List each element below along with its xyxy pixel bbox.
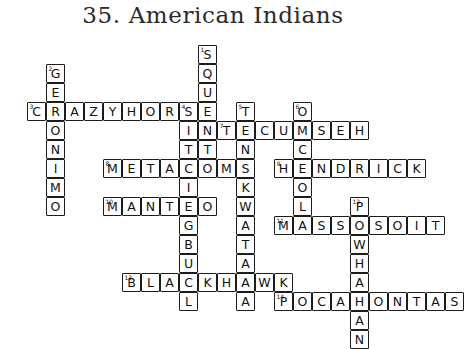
crossword-cell[interactable]: O — [141, 102, 160, 121]
crossword-cell[interactable]: 5T — [236, 102, 255, 121]
crossword-cell[interactable]: T — [160, 197, 179, 216]
crossword-cell[interactable]: T — [407, 292, 426, 311]
crossword-cell[interactable]: A — [160, 273, 179, 292]
crossword-cell[interactable]: 7T — [217, 121, 236, 140]
crossword-cell[interactable]: 1S — [198, 45, 217, 64]
crossword-cell[interactable]: 8M — [103, 159, 122, 178]
crossword-cell[interactable]: A — [293, 216, 312, 235]
crossword-cell[interactable]: T — [198, 140, 217, 159]
crossword-cell[interactable]: 12P — [350, 197, 369, 216]
crossword-cell[interactable]: H — [122, 102, 141, 121]
crossword-cell[interactable]: 2G — [46, 64, 65, 83]
crossword-cell[interactable]: I — [179, 121, 198, 140]
crossword-cell[interactable]: A — [236, 254, 255, 273]
crossword-cell[interactable]: E — [293, 159, 312, 178]
crossword-cell[interactable]: 6O — [293, 102, 312, 121]
crossword-cell[interactable]: A — [350, 311, 369, 330]
crossword-cell[interactable]: E — [236, 121, 255, 140]
crossword-cell[interactable]: S — [312, 216, 331, 235]
crossword-cell[interactable]: O — [388, 216, 407, 235]
crossword-cell[interactable]: N — [46, 140, 65, 159]
crossword-cell[interactable]: S — [236, 159, 255, 178]
crossword-cell[interactable]: O — [293, 178, 312, 197]
crossword-cell[interactable]: S — [312, 121, 331, 140]
crossword-cell[interactable]: C — [179, 273, 198, 292]
crossword-cell[interactable]: E — [198, 102, 217, 121]
crossword-cell[interactable]: S — [369, 216, 388, 235]
crossword-cell[interactable]: N — [388, 292, 407, 311]
crossword-cell[interactable]: A — [331, 292, 350, 311]
crossword-cell[interactable]: O — [46, 121, 65, 140]
crossword-cell[interactable]: T — [141, 159, 160, 178]
crossword-cell[interactable]: 13B — [122, 273, 141, 292]
crossword-cell[interactable]: E — [122, 159, 141, 178]
crossword-cell[interactable]: I — [46, 159, 65, 178]
crossword-cell[interactable]: C — [179, 159, 198, 178]
crossword-cell[interactable]: O — [293, 292, 312, 311]
crossword-cell[interactable]: O — [46, 197, 65, 216]
crossword-cell[interactable]: K — [236, 178, 255, 197]
crossword-cell[interactable]: A — [65, 102, 84, 121]
crossword-cell[interactable]: K — [407, 159, 426, 178]
crossword-cell[interactable]: T — [236, 235, 255, 254]
crossword-cell[interactable]: A — [236, 273, 255, 292]
crossword-cell[interactable]: M — [46, 178, 65, 197]
crossword-cell[interactable]: N — [236, 140, 255, 159]
crossword-cell[interactable]: 9H — [274, 159, 293, 178]
crossword-cell[interactable]: 10M — [103, 197, 122, 216]
crossword-cell[interactable]: 3C — [27, 102, 46, 121]
crossword-cell[interactable]: S — [445, 292, 464, 311]
crossword-cell[interactable]: U — [274, 121, 293, 140]
crossword-cell[interactable]: U — [198, 83, 217, 102]
crossword-cell[interactable]: W — [350, 235, 369, 254]
crossword-cell[interactable]: O — [198, 197, 217, 216]
crossword-cell[interactable]: C — [312, 292, 331, 311]
crossword-cell[interactable]: I — [179, 178, 198, 197]
crossword-cell[interactable]: M — [217, 159, 236, 178]
crossword-cell[interactable]: A — [426, 292, 445, 311]
crossword-cell[interactable]: H — [350, 121, 369, 140]
crossword-cell[interactable]: L — [293, 197, 312, 216]
crossword-cell[interactable]: Z — [84, 102, 103, 121]
crossword-cell[interactable]: C — [293, 140, 312, 159]
crossword-cell[interactable]: M — [293, 121, 312, 140]
crossword-cell[interactable]: K — [198, 273, 217, 292]
crossword-cell[interactable]: A — [160, 159, 179, 178]
crossword-cell[interactable]: A — [122, 197, 141, 216]
crossword-cell[interactable]: R — [160, 102, 179, 121]
crossword-cell[interactable]: E — [179, 197, 198, 216]
crossword-cell[interactable]: N — [141, 197, 160, 216]
crossword-cell[interactable]: H — [350, 254, 369, 273]
crossword-cell[interactable]: Y — [103, 102, 122, 121]
crossword-cell[interactable]: Q — [198, 64, 217, 83]
crossword-cell[interactable]: 4S — [179, 102, 198, 121]
crossword-cell[interactable]: 11M — [274, 216, 293, 235]
crossword-cell[interactable]: U — [179, 254, 198, 273]
crossword-cell[interactable]: L — [179, 292, 198, 311]
crossword-cell[interactable]: H — [217, 273, 236, 292]
crossword-cell[interactable]: D — [331, 159, 350, 178]
crossword-cell[interactable]: A — [236, 216, 255, 235]
crossword-cell[interactable]: I — [407, 216, 426, 235]
crossword-cell[interactable]: N — [312, 159, 331, 178]
crossword-cell[interactable]: T — [179, 140, 198, 159]
crossword-cell[interactable]: C — [255, 121, 274, 140]
crossword-cell[interactable]: I — [369, 159, 388, 178]
crossword-cell[interactable]: A — [350, 273, 369, 292]
crossword-cell[interactable]: E — [331, 121, 350, 140]
crossword-cell[interactable]: N — [350, 330, 369, 349]
crossword-cell[interactable]: R — [46, 102, 65, 121]
crossword-cell[interactable]: N — [198, 121, 217, 140]
crossword-cell[interactable]: K — [274, 273, 293, 292]
crossword-cell[interactable]: H — [350, 292, 369, 311]
crossword-cell[interactable]: E — [46, 83, 65, 102]
crossword-cell[interactable]: C — [388, 159, 407, 178]
crossword-cell[interactable]: S — [331, 216, 350, 235]
crossword-cell[interactable]: O — [369, 292, 388, 311]
crossword-cell[interactable]: O — [198, 159, 217, 178]
crossword-cell[interactable]: L — [141, 273, 160, 292]
crossword-cell[interactable]: B — [179, 235, 198, 254]
crossword-cell[interactable]: W — [255, 273, 274, 292]
crossword-cell[interactable]: R — [350, 159, 369, 178]
